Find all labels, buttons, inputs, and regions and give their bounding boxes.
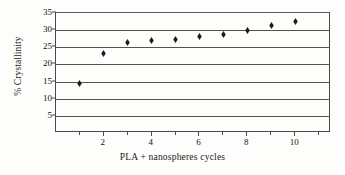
y-axis-tick-label: 25 [43,42,52,51]
x-axis-tick-label: 6 [196,138,201,147]
x-axis-tick-mark [175,132,176,135]
data-point [172,36,179,43]
data-point [100,50,107,57]
data-point [76,80,83,87]
x-axis-tick-mark [222,132,223,135]
x-axis-tick-mark [103,132,104,136]
y-axis-tick-label: 15 [43,76,52,85]
x-axis-ticks: 246810 [55,132,330,154]
data-point [292,18,299,25]
x-axis-tick-mark [127,132,128,135]
y-axis-title: % Crystallinity [8,0,28,132]
x-axis-tick-label: 10 [290,138,299,147]
data-point [196,33,203,40]
gridline [56,64,329,65]
x-axis-tick-mark [246,132,247,136]
y-axis-tick-label: 20 [43,59,52,68]
x-axis-title: PLA + nanospheres cycles [0,152,345,162]
x-axis-tick-mark [294,132,295,136]
crystallinity-scatter-chart: % Crystallinity 5101520253035 246810 PLA… [0,0,345,175]
y-axis-tick-labels: 5101520253035 [28,0,52,175]
x-axis-tick-mark [198,132,199,136]
y-axis-title-text: % Crystallinity [13,36,23,95]
x-axis-tick-label: 2 [101,138,106,147]
x-axis-tick-mark [318,132,319,135]
x-axis-tick-mark [79,132,80,135]
gridline [56,116,329,117]
data-point [244,27,251,34]
data-point [268,22,275,29]
gridline [56,82,329,83]
y-axis-tick-label: 10 [43,93,52,102]
gridline [56,30,329,31]
x-axis-tick-label: 4 [148,138,153,147]
x-axis-tick-mark [151,132,152,136]
data-point [124,39,131,46]
y-axis-tick-label: 35 [43,8,52,17]
y-axis-tick-label: 30 [43,25,52,34]
data-point [220,31,227,38]
data-point [148,37,155,44]
gridline [56,99,329,100]
x-axis-tick-mark [270,132,271,135]
x-axis-tick-label: 8 [244,138,249,147]
plot-area [55,12,330,132]
gridline [56,47,329,48]
